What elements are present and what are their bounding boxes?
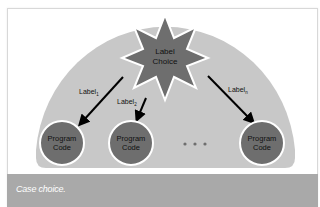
- label-choice-star: Label Choice: [122, 15, 208, 100]
- program-code-node-1: Program Code: [40, 121, 84, 165]
- caption-text: Case choice.: [16, 184, 66, 194]
- svg-text:Program: Program: [248, 134, 277, 143]
- program-code-node-2: Program Code: [109, 121, 153, 165]
- svg-text:Code: Code: [253, 143, 271, 152]
- star-text-line2: Choice: [153, 57, 178, 66]
- svg-text:Choice: Choice: [153, 57, 178, 66]
- caption-bar: Case choice.: [7, 174, 318, 207]
- star-text-line1: Label: [155, 47, 175, 56]
- svg-text:Program: Program: [117, 134, 146, 143]
- svg-text:Code: Code: [53, 143, 71, 152]
- svg-text:Program: Program: [48, 134, 77, 143]
- svg-text:Code: Code: [122, 143, 140, 152]
- svg-text:Label: Label: [155, 47, 175, 56]
- program-code-node-n: Program Code: [240, 121, 284, 165]
